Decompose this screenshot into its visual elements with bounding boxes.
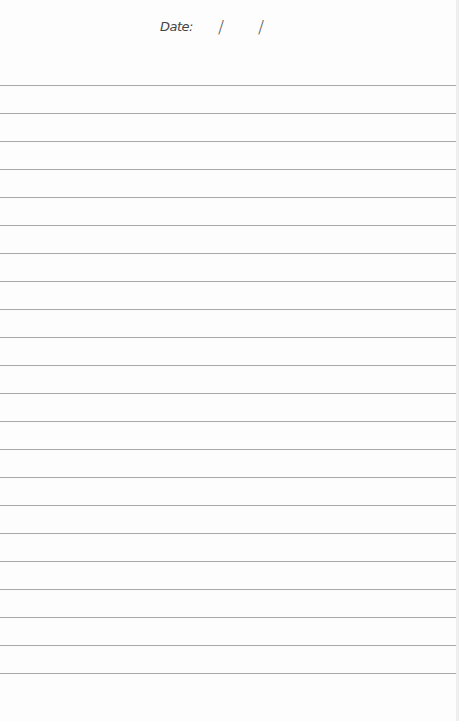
ruled-line <box>0 253 459 254</box>
ruled-line <box>0 673 459 674</box>
ruled-line <box>0 533 459 534</box>
ruled-line <box>0 617 459 618</box>
ruled-line <box>0 337 459 338</box>
ruled-line <box>0 477 459 478</box>
ruled-line <box>0 505 459 506</box>
ruled-line <box>0 113 459 114</box>
date-header: Date: / / <box>0 14 459 44</box>
date-label: Date: <box>160 19 193 34</box>
ruled-line <box>0 281 459 282</box>
date-separator: / <box>258 16 264 37</box>
ruled-line <box>0 589 459 590</box>
ruled-line <box>0 169 459 170</box>
ruled-line <box>0 645 459 646</box>
ruled-line <box>0 421 459 422</box>
ruled-line <box>0 561 459 562</box>
ruled-line <box>0 365 459 366</box>
ruled-line <box>0 309 459 310</box>
ruled-line <box>0 449 459 450</box>
ruled-line <box>0 225 459 226</box>
date-separator: / <box>218 16 224 37</box>
ruled-line <box>0 393 459 394</box>
ruled-line <box>0 85 459 86</box>
ruled-line <box>0 197 459 198</box>
ruled-line <box>0 141 459 142</box>
